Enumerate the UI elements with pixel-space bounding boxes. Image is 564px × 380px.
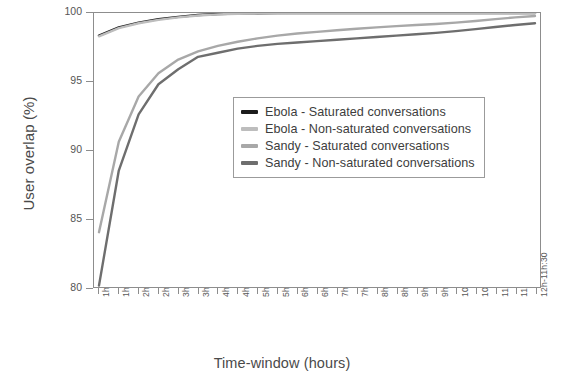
y-tick-label: 80 (46, 281, 82, 293)
x-tick-mark (98, 288, 99, 294)
legend-swatch-icon (241, 110, 258, 114)
x-tick-mark (436, 288, 437, 294)
chart-legend: Ebola - Saturated conversationsEbola - N… (233, 97, 485, 178)
x-tick-mark (198, 288, 199, 294)
x-tick-mark (158, 288, 159, 294)
legend-label: Ebola - Non-saturated conversations (265, 122, 471, 136)
chart-figure: User overlap (%) Time-window (hours) 808… (0, 0, 564, 380)
legend-swatch-icon (241, 127, 258, 131)
x-axis-title: Time-window (hours) (0, 355, 564, 371)
legend-label: Sandy - Non-saturated conversations (265, 156, 475, 170)
legend-item: Ebola - Non-saturated conversations (241, 120, 475, 137)
y-tick-label: 95 (46, 74, 82, 86)
y-axis-title: User overlap (%) (20, 34, 37, 274)
y-tick-label: 85 (46, 212, 82, 224)
x-tick-mark (277, 288, 278, 294)
legend-item: Ebola - Saturated conversations (241, 103, 475, 120)
x-tick-mark (397, 288, 398, 294)
x-tick-mark (377, 288, 378, 294)
x-tick-mark (138, 288, 139, 294)
legend-item: Sandy - Saturated conversations (241, 137, 475, 154)
x-tick-mark (118, 288, 119, 294)
y-tick-mark (86, 219, 93, 220)
x-tick-mark (417, 288, 418, 294)
x-tick-mark (178, 288, 179, 294)
legend-swatch-icon (241, 161, 258, 165)
y-tick-label: 90 (46, 143, 82, 155)
y-tick-mark (86, 288, 93, 289)
legend-item: Sandy - Non-saturated conversations (241, 154, 475, 171)
x-tick-mark (516, 288, 517, 294)
x-tick-mark (337, 288, 338, 294)
x-tick-mark (297, 288, 298, 294)
legend-swatch-icon (241, 144, 258, 148)
legend-label: Ebola - Saturated conversations (265, 105, 446, 119)
x-tick-mark (357, 288, 358, 294)
x-tick-mark (496, 288, 497, 294)
y-tick-mark (86, 150, 93, 151)
y-tick-mark (86, 81, 93, 82)
x-tick-mark (217, 288, 218, 294)
x-tick-mark (257, 288, 258, 294)
y-tick-label: 100 (46, 5, 82, 17)
x-tick-mark (456, 288, 457, 294)
x-tick-mark (476, 288, 477, 294)
y-tick-mark (86, 12, 93, 13)
x-tick-mark (317, 288, 318, 294)
x-tick-mark (237, 288, 238, 294)
legend-label: Sandy - Saturated conversations (265, 139, 449, 153)
x-tick-mark (536, 288, 537, 294)
